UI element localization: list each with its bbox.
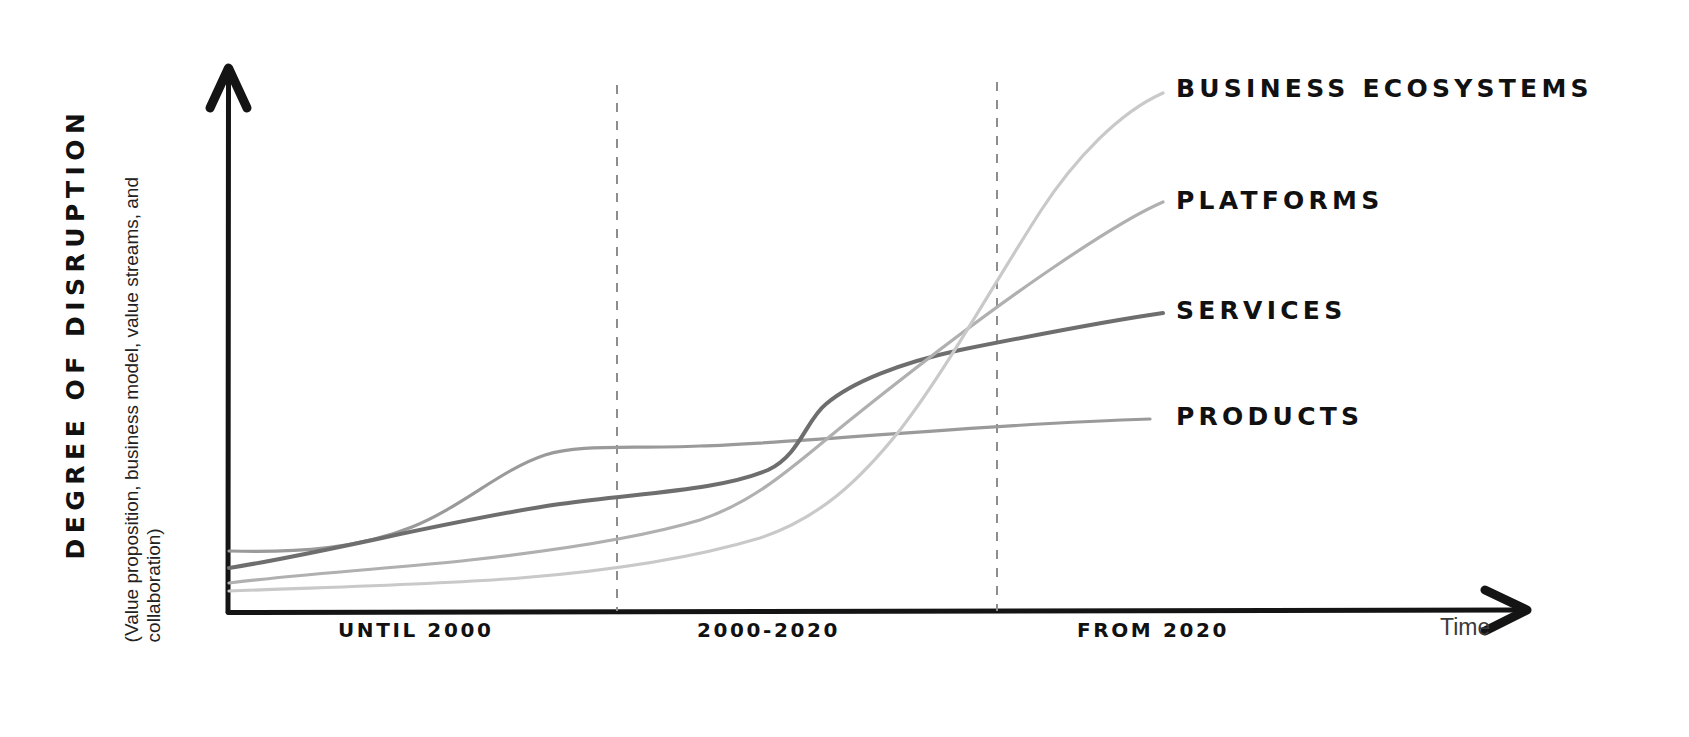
- series-curves: [229, 93, 1163, 591]
- chart-container: BUSINESS ECOSYSTEMS PLATFORMS SERVICES P…: [0, 0, 1689, 737]
- chart-canvas: [0, 0, 1689, 737]
- curve-platforms: [229, 202, 1163, 583]
- series-label-business-ecosystems: BUSINESS ECOSYSTEMS: [1176, 74, 1593, 103]
- era-dividers: [617, 82, 997, 611]
- curve-business-ecosystems: [229, 93, 1163, 591]
- y-axis-subtitle: (Value proposition, business model, valu…: [121, 312, 166, 642]
- series-label-services: SERVICES: [1176, 296, 1346, 325]
- x-axis-segment-from-2020: FROM 2020: [1077, 618, 1229, 642]
- y-axis-line: [228, 80, 229, 612]
- y-axis-subtitle-line-2: collaboration): [143, 312, 165, 642]
- y-axis-subtitle-line-1: (Value proposition, business model, valu…: [121, 312, 143, 642]
- x-axis-segment-until-2000: UNTIL 2000: [338, 618, 493, 642]
- x-axis-segment-2000-2020: 2000-2020: [697, 618, 840, 642]
- x-axis-line: [228, 610, 1515, 613]
- y-axis-title: DEGREE OF DISRUPTION: [61, 130, 90, 560]
- curve-services: [229, 313, 1163, 568]
- series-label-platforms: PLATFORMS: [1176, 186, 1383, 215]
- series-label-products: PRODUCTS: [1176, 402, 1363, 431]
- curve-products: [229, 419, 1150, 551]
- axis-group: [210, 68, 1527, 631]
- x-axis-title: Time: [1440, 614, 1490, 641]
